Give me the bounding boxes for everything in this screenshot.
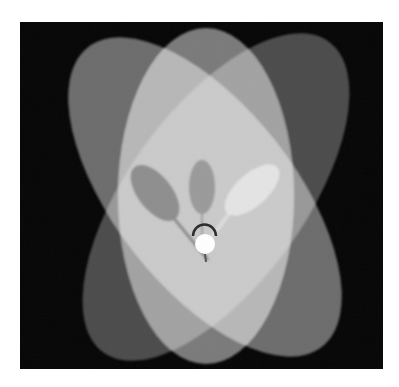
photo-frame: Photograph of three overlapping elliptic… xyxy=(20,22,383,369)
light-projection-scene xyxy=(20,22,383,369)
film-grain-overlay xyxy=(20,22,383,369)
